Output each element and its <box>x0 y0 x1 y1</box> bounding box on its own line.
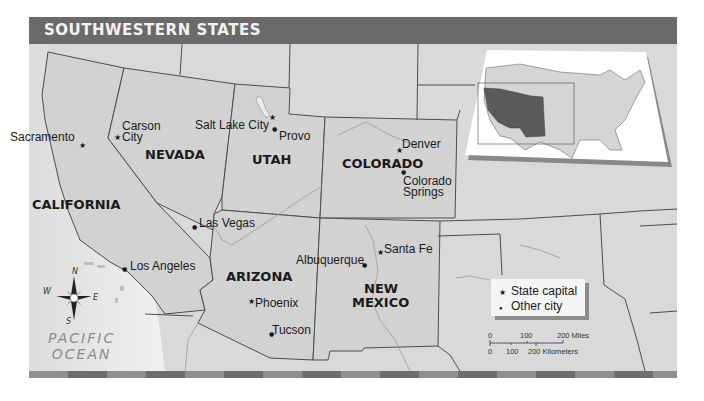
state-label: MEXICO <box>352 296 409 310</box>
city-label: Springs <box>403 186 444 198</box>
scale-km-0: 0 <box>488 347 492 356</box>
compass-north: N <box>72 267 78 276</box>
legend-capital: ★State capital <box>499 284 577 298</box>
compass-west: W <box>43 287 51 296</box>
star-icon: ★ <box>79 141 86 150</box>
city-label: Denver <box>402 138 441 150</box>
dot-icon: ● <box>192 223 197 230</box>
scale-km-100: 100 <box>506 347 519 356</box>
ocean-label: PACIFIC OCEAN <box>48 330 115 362</box>
dot-icon: ● <box>499 305 511 311</box>
city-label: Salt Lake City <box>195 119 269 131</box>
state-label: UTAH <box>252 153 291 167</box>
state-label: NEVADA <box>145 148 205 162</box>
inset-map <box>465 50 672 167</box>
state-label: CALIFORNIA <box>32 198 120 212</box>
ocean-label-line1: PACIFIC <box>48 330 115 346</box>
scale-miles-0: 0 <box>488 331 492 340</box>
ocean-label-line2: OCEAN <box>48 346 115 362</box>
city-label: Sacramento <box>10 131 75 143</box>
city-label: City <box>122 131 143 143</box>
city-label: Albuquerque <box>296 254 364 266</box>
bottom-color-strip <box>29 371 677 378</box>
legend-city: ●Other city <box>499 299 562 313</box>
star-icon: ★ <box>499 288 511 297</box>
legend-city-label: Other city <box>511 299 562 313</box>
map-legend: ★State capital ●Other city <box>491 279 585 316</box>
compass-east: E <box>93 293 98 302</box>
legend-capital-label: State capital <box>511 284 577 298</box>
city-label: Provo <box>279 130 310 142</box>
dot-icon: ● <box>122 265 127 272</box>
star-icon: ★ <box>269 113 276 122</box>
city-label: Phoenix <box>255 297 298 309</box>
state-label: ARIZONA <box>226 270 292 284</box>
scale-miles-100: 100 <box>520 331 533 340</box>
city-label: Los Angeles <box>130 260 195 272</box>
map-title: SOUTHWESTERN STATES <box>44 21 261 39</box>
scale-miles-200: 200 Miles <box>557 331 589 340</box>
compass-south: S <box>66 317 71 326</box>
city-label: Tucson <box>272 324 311 336</box>
star-icon: ★ <box>114 133 121 142</box>
city-label: Santa Fe <box>384 243 433 255</box>
state-label: NEW <box>364 282 398 296</box>
city-label: Las Vegas <box>199 217 255 229</box>
dot-icon: ● <box>272 125 277 132</box>
state-label: COLORADO <box>342 157 423 171</box>
scale-km-200: 200 Kilometers <box>528 347 578 356</box>
